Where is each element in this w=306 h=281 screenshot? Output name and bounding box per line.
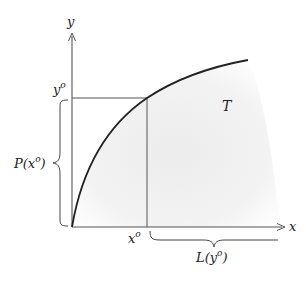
technology-set-diagram: y x yo xo T P(xo) L(yo) — [0, 0, 306, 281]
p-x-o-label: P(xo) — [13, 154, 46, 171]
y-axis-label: y — [66, 14, 75, 29]
bottom-brace-icon — [150, 231, 278, 247]
y-o-label: yo — [52, 80, 66, 97]
x-o-label: xo — [128, 229, 141, 246]
left-brace-icon — [53, 100, 68, 226]
x-axis-label: x — [289, 219, 297, 234]
l-y-o-label: L(yo) — [195, 248, 228, 265]
